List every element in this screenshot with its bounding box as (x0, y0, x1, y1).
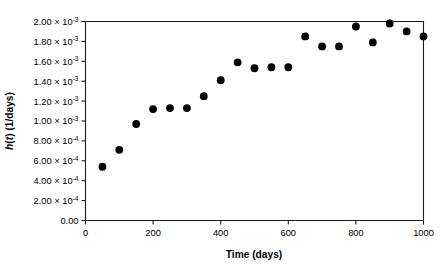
x-tick-label: 600 (281, 228, 297, 238)
data-point (420, 33, 428, 41)
x-axis-tick-labels: 02004006008001000 (83, 228, 434, 238)
data-point (217, 76, 225, 84)
data-point (284, 63, 292, 71)
data-point (352, 23, 360, 31)
y-axis-title: h(t) (1/days) (4, 92, 15, 150)
y-tick-label: 4.00 × 10-4 (34, 175, 79, 186)
data-point (166, 104, 174, 112)
data-point (251, 64, 259, 72)
x-tick-label: 800 (348, 228, 364, 238)
y-axis-tick-labels: 0.002.00 × 10-44.00 × 10-46.00 × 10-48.0… (34, 16, 79, 226)
y-tick-label: 2.00 × 10-4 (34, 195, 79, 206)
x-tick-label: 400 (213, 228, 229, 238)
x-tick-label: 1000 (413, 228, 434, 238)
y-axis-title-group: h(t) (1/days) (4, 92, 15, 150)
y-tick-label: 1.80 × 10-3 (34, 35, 79, 46)
data-point (403, 28, 411, 36)
y-tick-label: 6.00 × 10-4 (34, 155, 79, 166)
y-tick-label: 0.00 (60, 216, 78, 226)
data-point-series (99, 20, 428, 171)
x-axis-title: Time (days) (226, 249, 282, 260)
y-tick-label: 1.60 × 10-3 (34, 55, 79, 66)
data-point (301, 33, 309, 41)
x-tick-label: 0 (83, 228, 88, 238)
y-tick-label: 1.00 × 10-3 (34, 115, 79, 126)
data-point (149, 105, 157, 113)
y-tick-label: 8.00 × 10-4 (34, 135, 79, 146)
data-point (183, 104, 191, 112)
chart-figure: 0.002.00 × 10-44.00 × 10-46.00 × 10-48.0… (0, 0, 443, 266)
data-point (335, 42, 343, 50)
data-point (132, 120, 140, 128)
data-point (115, 146, 123, 154)
data-point (386, 20, 394, 28)
data-point (369, 38, 377, 46)
x-tick-label: 200 (145, 228, 161, 238)
data-point (234, 58, 242, 66)
scatter-plot: 0.002.00 × 10-44.00 × 10-46.00 × 10-48.0… (0, 0, 443, 266)
y-tick-label: 2.00 × 10-3 (34, 16, 79, 27)
data-point (200, 92, 208, 100)
x-axis-ticks (86, 221, 424, 225)
y-tick-label: 1.20 × 10-3 (34, 95, 79, 106)
y-tick-label: 1.40 × 10-3 (34, 75, 79, 86)
y-axis-ticks (82, 22, 86, 221)
data-point (318, 42, 326, 50)
data-point (268, 63, 276, 71)
data-point (99, 163, 107, 171)
